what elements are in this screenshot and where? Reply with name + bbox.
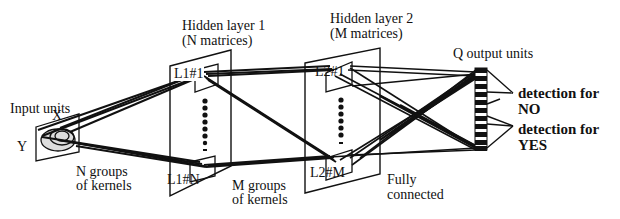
hidden-layer-2-title: Hidden layer 2 [330, 11, 413, 26]
detection-no-line1: detection for [518, 85, 599, 101]
fully-connected-label-line1: Fully [387, 172, 417, 187]
hidden-layer-1-dots [202, 98, 207, 151]
detection-yes-line2: YES [518, 137, 547, 153]
detection-yes-line1: detection for [518, 121, 599, 137]
l2-last-unit-label: L2#M [310, 165, 345, 180]
input-x-axis-label: X [52, 108, 62, 123]
output-units-label: Q output units [453, 46, 533, 61]
l1-to-l2-lines [204, 66, 336, 167]
m-groups-label-line1: M groups [232, 178, 286, 193]
l1-last-unit-label: L1#N [167, 172, 200, 187]
output-grouping-lines [487, 70, 513, 148]
l2-first-unit-label: L2#1 [315, 64, 345, 79]
fully-connected-heavy-lines [380, 74, 476, 148]
hidden-layer-2-dots [338, 97, 343, 144]
hidden-layer-2-subtitle: (M matrices) [330, 26, 403, 41]
detection-no-line2: NO [518, 101, 541, 117]
input-to-l1-last-lines [42, 137, 206, 167]
m-groups-label-line2: of kernels [232, 192, 288, 207]
l1-first-unit-label: L1#1 [174, 66, 204, 81]
fully-connected-label-line2: connected [387, 187, 444, 202]
n-groups-label-line2: of kernels [76, 178, 132, 193]
network-diagram: Input units X Y Hidden layer 1 (N matric… [0, 0, 620, 219]
hidden-layer-1-title: Hidden layer 1 [182, 18, 265, 33]
input-y-axis-label: Y [17, 139, 27, 154]
hidden-layer-1-subtitle: (N matrices) [182, 33, 252, 48]
n-groups-label-line1: N groups [76, 164, 128, 179]
output-units-column [475, 68, 487, 151]
